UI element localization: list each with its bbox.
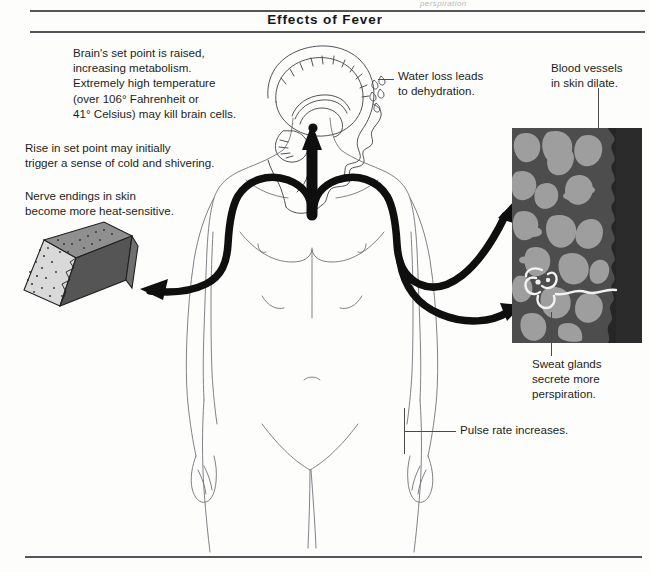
caption-water-loss: Water loss leads to dehydration. (398, 68, 518, 98)
caption-sweat-glands: Sweat glands secrete more perspiration. (532, 356, 642, 402)
caption-pulse-rate: Pulse rate increases. (460, 422, 610, 437)
caption-nerve-endings: Nerve endings in skin become more heat-s… (25, 188, 225, 218)
leader-line-sweat-glands (551, 312, 552, 356)
skin-cross-section-panel (512, 128, 642, 343)
skin-cross-section-art (512, 128, 642, 343)
leader-line-pulse-vertical (404, 408, 405, 454)
caption-blood-vessels: Blood vessels in skin dilate. (551, 60, 650, 90)
leader-line-blood-vessels (598, 88, 599, 130)
diagram-page: perspiration Effects of Fever (0, 0, 650, 572)
leader-line-pulse-rate (404, 431, 456, 432)
caption-brain-set-point: Brain's set point is raised, increasing … (73, 45, 278, 121)
skin-block-illustration (24, 222, 138, 306)
leader-line-water-loss (378, 79, 394, 80)
rule-page-bottom (25, 556, 642, 558)
caption-rise-in-set-point: Rise in set point may initially trigger … (25, 140, 275, 170)
